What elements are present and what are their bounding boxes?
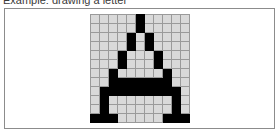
pixel-grid-row[interactable]: [91, 24, 190, 33]
pixel-cell-empty[interactable]: [136, 60, 145, 69]
pixel-cell-empty[interactable]: [181, 87, 190, 96]
pixel-cell-empty[interactable]: [163, 60, 172, 69]
pixel-cell-empty[interactable]: [100, 24, 109, 33]
pixel-cell-empty[interactable]: [91, 87, 100, 96]
pixel-cell-filled[interactable]: [118, 78, 127, 87]
pixel-cell-filled[interactable]: [127, 33, 136, 42]
pixel-cell-empty[interactable]: [163, 96, 172, 105]
pixel-cell-empty[interactable]: [181, 60, 190, 69]
pixel-cell-empty[interactable]: [145, 69, 154, 78]
pixel-cell-empty[interactable]: [109, 15, 118, 24]
pixel-cell-filled[interactable]: [145, 87, 154, 96]
pixel-cell-empty[interactable]: [91, 51, 100, 60]
pixel-cell-filled[interactable]: [172, 105, 181, 114]
pixel-cell-empty[interactable]: [154, 15, 163, 24]
pixel-cell-filled[interactable]: [118, 87, 127, 96]
pixel-cell-empty[interactable]: [181, 78, 190, 87]
pixel-cell-filled[interactable]: [109, 78, 118, 87]
pixel-cell-filled[interactable]: [118, 51, 127, 60]
pixel-cell-empty[interactable]: [172, 15, 181, 24]
pixel-cell-empty[interactable]: [181, 15, 190, 24]
pixel-cell-filled[interactable]: [181, 114, 190, 123]
pixel-cell-empty[interactable]: [100, 33, 109, 42]
pixel-cell-filled[interactable]: [145, 42, 154, 51]
pixel-cell-empty[interactable]: [109, 60, 118, 69]
pixel-cell-empty[interactable]: [136, 51, 145, 60]
pixel-cell-filled[interactable]: [136, 78, 145, 87]
pixel-grid-row[interactable]: [91, 78, 190, 87]
pixel-cell-filled[interactable]: [91, 114, 100, 123]
pixel-cell-filled[interactable]: [136, 15, 145, 24]
pixel-cell-empty[interactable]: [91, 33, 100, 42]
pixel-cell-empty[interactable]: [109, 33, 118, 42]
pixel-cell-empty[interactable]: [127, 96, 136, 105]
pixel-cell-empty[interactable]: [91, 15, 100, 24]
pixel-cell-empty[interactable]: [154, 114, 163, 123]
pixel-cell-empty[interactable]: [136, 114, 145, 123]
pixel-cell-empty[interactable]: [181, 69, 190, 78]
pixel-cell-filled[interactable]: [100, 105, 109, 114]
pixel-grid-row[interactable]: [91, 51, 190, 60]
pixel-cell-empty[interactable]: [145, 51, 154, 60]
pixel-cell-filled[interactable]: [172, 114, 181, 123]
pixel-cell-empty[interactable]: [154, 24, 163, 33]
pixel-cell-empty[interactable]: [118, 96, 127, 105]
pixel-cell-empty[interactable]: [100, 60, 109, 69]
pixel-cell-filled[interactable]: [109, 69, 118, 78]
pixel-cell-filled[interactable]: [154, 78, 163, 87]
pixel-cell-empty[interactable]: [172, 24, 181, 33]
pixel-cell-filled[interactable]: [109, 114, 118, 123]
pixel-cell-empty[interactable]: [163, 51, 172, 60]
pixel-cell-empty[interactable]: [118, 105, 127, 114]
pixel-cell-empty[interactable]: [91, 96, 100, 105]
pixel-grid-row[interactable]: [91, 60, 190, 69]
pixel-cell-empty[interactable]: [172, 60, 181, 69]
pixel-cell-empty[interactable]: [100, 51, 109, 60]
pixel-grid-row[interactable]: [91, 42, 190, 51]
pixel-cell-empty[interactable]: [118, 24, 127, 33]
pixel-cell-empty[interactable]: [100, 78, 109, 87]
pixel-grid-row[interactable]: [91, 15, 190, 24]
pixel-cell-empty[interactable]: [163, 105, 172, 114]
pixel-cell-filled[interactable]: [172, 96, 181, 105]
pixel-cell-empty[interactable]: [181, 96, 190, 105]
pixel-cell-empty[interactable]: [136, 69, 145, 78]
pixel-cell-empty[interactable]: [154, 96, 163, 105]
pixel-cell-empty[interactable]: [163, 24, 172, 33]
pixel-cell-empty[interactable]: [118, 114, 127, 123]
pixel-cell-filled[interactable]: [154, 87, 163, 96]
pixel-cell-empty[interactable]: [91, 69, 100, 78]
pixel-cell-empty[interactable]: [109, 105, 118, 114]
pixel-cell-empty[interactable]: [91, 42, 100, 51]
pixel-cell-empty[interactable]: [172, 69, 181, 78]
pixel-cell-filled[interactable]: [109, 87, 118, 96]
pixel-grid-container[interactable]: [90, 14, 190, 123]
pixel-cell-empty[interactable]: [181, 42, 190, 51]
pixel-grid[interactable]: [90, 14, 190, 123]
pixel-cell-empty[interactable]: [163, 33, 172, 42]
pixel-cell-empty[interactable]: [109, 42, 118, 51]
pixel-cell-empty[interactable]: [154, 105, 163, 114]
pixel-cell-filled[interactable]: [154, 51, 163, 60]
pixel-grid-row[interactable]: [91, 33, 190, 42]
pixel-cell-empty[interactable]: [181, 33, 190, 42]
pixel-cell-empty[interactable]: [145, 105, 154, 114]
pixel-cell-empty[interactable]: [127, 15, 136, 24]
pixel-cell-empty[interactable]: [181, 51, 190, 60]
pixel-cell-empty[interactable]: [172, 51, 181, 60]
pixel-cell-empty[interactable]: [127, 51, 136, 60]
pixel-cell-filled[interactable]: [163, 114, 172, 123]
pixel-grid-row[interactable]: [91, 114, 190, 123]
pixel-cell-empty[interactable]: [172, 33, 181, 42]
pixel-cell-empty[interactable]: [127, 105, 136, 114]
pixel-cell-empty[interactable]: [136, 42, 145, 51]
pixel-grid-row[interactable]: [91, 105, 190, 114]
pixel-cell-empty[interactable]: [91, 24, 100, 33]
pixel-cell-filled[interactable]: [163, 87, 172, 96]
pixel-cell-empty[interactable]: [136, 33, 145, 42]
pixel-cell-filled[interactable]: [163, 69, 172, 78]
pixel-cell-empty[interactable]: [109, 96, 118, 105]
pixel-cell-empty[interactable]: [100, 69, 109, 78]
pixel-cell-empty[interactable]: [109, 51, 118, 60]
pixel-cell-filled[interactable]: [145, 33, 154, 42]
